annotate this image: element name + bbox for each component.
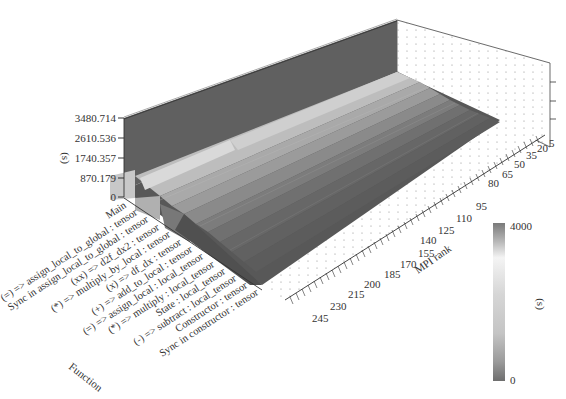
- x-tick-140: 140: [420, 234, 437, 246]
- x-tick-5: 5: [549, 137, 555, 149]
- x-tick-20: 20: [537, 142, 549, 154]
- x-tick-110: 110: [456, 212, 473, 224]
- z-tick-4: 3480.714: [75, 112, 117, 124]
- z-axis-label: (s): [59, 152, 72, 164]
- surface-chart: 3480.714 2610.536 1740.357 870.179 0 (s)…: [0, 0, 566, 399]
- x-tick-65: 65: [502, 168, 514, 180]
- z-tick-3: 2610.536: [75, 132, 117, 144]
- z-tick-2: 1740.357: [75, 152, 117, 164]
- x-tick-185: 185: [384, 268, 401, 280]
- x-tick-245: 245: [312, 312, 329, 324]
- z-tick-0: 0: [111, 191, 117, 203]
- colorbar-max: 4000: [510, 220, 533, 232]
- x-tick-95: 95: [476, 200, 488, 212]
- function-axis-label: Function: [67, 360, 106, 394]
- x-tick-125: 125: [438, 224, 455, 236]
- colorbar-min: 0: [510, 374, 516, 386]
- x-tick-80: 80: [488, 177, 500, 189]
- z-tick-1: 870.179: [80, 172, 116, 184]
- x-tick-50: 50: [514, 158, 526, 170]
- x-tick-200: 200: [364, 278, 381, 290]
- colorbar-unit: (s): [534, 298, 547, 310]
- x-tick-215: 215: [348, 288, 365, 300]
- colorbar: 4000 0 (s): [493, 220, 547, 386]
- x-tick-35: 35: [526, 149, 538, 161]
- x-tick-230: 230: [330, 300, 347, 312]
